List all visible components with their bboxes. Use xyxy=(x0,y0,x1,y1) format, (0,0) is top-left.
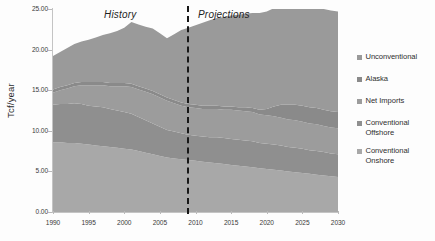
y-axis-tick-labels: 0.005.0010.0015.0020.0025.00 xyxy=(16,0,48,241)
legend-item-alaska[interactable]: Alaska xyxy=(357,74,435,84)
x-tick-mark xyxy=(124,211,125,214)
y-tick-label: 15.00 xyxy=(18,86,48,93)
x-tick-label: 2000 xyxy=(117,219,131,226)
y-tick-mark xyxy=(48,131,52,132)
x-tick-mark xyxy=(267,211,268,214)
stacked-area-series-group xyxy=(53,9,338,212)
x-tick-label: 1990 xyxy=(46,219,60,226)
legend-swatch-icon xyxy=(357,77,362,82)
legend-label: Unconventional xyxy=(366,52,418,62)
x-tick-mark xyxy=(196,211,197,214)
x-tick-label: 2030 xyxy=(331,219,345,226)
x-tick-mark xyxy=(231,211,232,214)
y-tick-label: 25.00 xyxy=(18,5,48,12)
legend-item-unconventional[interactable]: Unconventional xyxy=(357,52,435,62)
legend-item-conventional-onshore[interactable]: Conventional Onshore xyxy=(357,146,435,165)
x-tick-label: 2020 xyxy=(260,219,274,226)
x-tick-label: 2005 xyxy=(153,219,167,226)
chart-legend: UnconventionalAlaskaNet ImportsConventio… xyxy=(357,52,435,175)
x-tick-label: 1995 xyxy=(81,219,95,226)
legend-label: Conventional Onshore xyxy=(366,146,435,165)
x-tick-label: 2010 xyxy=(188,219,202,226)
x-tick-mark xyxy=(302,211,303,214)
x-tick-label: 2015 xyxy=(224,219,238,226)
legend-label: Conventional Offshore xyxy=(366,118,435,137)
y-tick-label: 10.00 xyxy=(18,127,48,134)
x-tick-mark xyxy=(338,211,339,214)
x-tick-mark xyxy=(53,211,54,214)
legend-item-net-imports[interactable]: Net Imports xyxy=(357,96,435,106)
x-tick-label: 2025 xyxy=(295,219,309,226)
legend-swatch-icon xyxy=(357,149,362,154)
y-tick-label: 5.00 xyxy=(18,167,48,174)
chart-figure: Tcf/year 0.005.0010.0015.0020.0025.00 Hi… xyxy=(0,0,435,241)
legend-swatch-icon xyxy=(357,55,362,60)
legend-swatch-icon xyxy=(357,99,362,104)
y-tick-mark xyxy=(48,90,52,91)
plot-area xyxy=(53,9,338,212)
annotation-history: History xyxy=(104,9,137,20)
legend-item-conventional-offshore[interactable]: Conventional Offshore xyxy=(357,118,435,137)
x-axis-tick-labels: 199019952000200520102015202020252030 xyxy=(0,214,435,238)
x-tick-mark xyxy=(160,211,161,214)
legend-label: Alaska xyxy=(366,74,389,84)
legend-label: Net Imports xyxy=(366,96,405,106)
x-tick-mark xyxy=(89,211,90,214)
y-tick-mark xyxy=(48,212,52,213)
legend-swatch-icon xyxy=(357,121,362,126)
y-tick-mark xyxy=(48,171,52,172)
y-tick-mark xyxy=(48,50,52,51)
y-tick-mark xyxy=(48,9,52,10)
y-axis-title: Tcf/year xyxy=(5,70,16,132)
y-tick-label: 20.00 xyxy=(18,46,48,53)
annotation-projections: Projections xyxy=(198,9,250,20)
history-projection-divider xyxy=(187,6,189,214)
